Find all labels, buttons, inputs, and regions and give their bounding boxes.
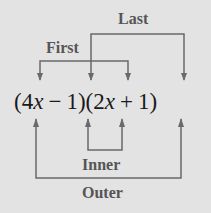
variable: x bbox=[33, 89, 43, 114]
foil-diagram: Last First (4x−1)(2x+1) Inner Outer bbox=[0, 0, 211, 213]
constant: 1 bbox=[138, 89, 150, 114]
factor-1: (4x−1) bbox=[14, 89, 86, 114]
label-last: Last bbox=[118, 11, 148, 27]
factor-2: (2x+1) bbox=[86, 89, 158, 114]
constant: 1 bbox=[66, 89, 78, 114]
arrowhead-up-icon bbox=[85, 118, 91, 127]
arrowhead-up-icon bbox=[33, 118, 39, 127]
foil-expression: (4x−1)(2x+1) bbox=[14, 90, 157, 113]
open-paren: ( bbox=[14, 89, 22, 114]
close-paren: ) bbox=[78, 89, 86, 114]
coefficient: 2 bbox=[93, 89, 105, 114]
label-first: First bbox=[46, 40, 79, 56]
operator: − bbox=[43, 89, 66, 114]
arrowhead-up-icon bbox=[119, 118, 125, 127]
last-bracket bbox=[88, 34, 187, 81]
arrowhead-up-icon bbox=[178, 118, 184, 127]
arrowhead-down-icon bbox=[37, 73, 43, 81]
inner-bracket bbox=[85, 118, 125, 150]
coefficient: 4 bbox=[22, 89, 34, 114]
label-outer: Outer bbox=[82, 185, 123, 201]
close-paren: ) bbox=[149, 89, 157, 114]
variable: x bbox=[105, 89, 115, 114]
label-inner: Inner bbox=[82, 157, 120, 173]
arrowhead-down-icon bbox=[125, 73, 131, 81]
first-bracket bbox=[37, 61, 131, 81]
arrowhead-down-icon bbox=[88, 73, 94, 81]
arrowhead-down-icon bbox=[181, 73, 187, 81]
operator: + bbox=[115, 89, 138, 114]
